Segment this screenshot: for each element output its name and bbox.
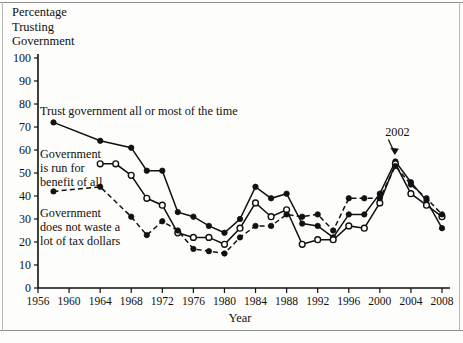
chart-figure: Percentage Trusting Government 010203040…	[0, 0, 463, 343]
data-point	[268, 223, 273, 228]
data-point	[51, 189, 56, 194]
x-tick-label-1972: 1972	[151, 295, 174, 307]
y-tick-label-50: 50	[19, 166, 31, 180]
data-point	[175, 228, 180, 233]
data-point	[159, 202, 165, 208]
data-point	[377, 196, 382, 201]
data-point	[424, 202, 430, 208]
data-point	[268, 196, 273, 201]
x-tick-label-1992: 1992	[306, 295, 329, 307]
data-point	[346, 223, 352, 229]
x-tick-label-1996: 1996	[337, 295, 360, 307]
y-tick-label-10: 10	[19, 258, 31, 272]
data-point	[330, 237, 336, 243]
series-label-waste-2: does not waste a	[40, 220, 121, 234]
data-point	[439, 226, 444, 231]
data-point	[237, 216, 242, 221]
x-tick-label-1960: 1960	[58, 295, 81, 307]
data-point	[253, 200, 259, 206]
x-tick-label-2008: 2008	[431, 295, 454, 307]
data-point	[268, 214, 274, 220]
data-point	[206, 223, 211, 228]
data-point	[424, 196, 429, 201]
data-point	[253, 184, 258, 189]
series-label-benefit-3: benefit of all	[40, 175, 103, 189]
data-point	[253, 223, 258, 228]
y-tick-label-0: 0	[25, 281, 31, 295]
data-point	[222, 230, 227, 235]
data-point	[315, 212, 320, 217]
data-point	[222, 241, 228, 247]
x-tick-label-2004: 2004	[399, 295, 422, 307]
series-label-benefit-2: is run for	[40, 161, 85, 175]
data-point	[361, 225, 367, 231]
data-point	[315, 237, 321, 243]
data-point	[160, 219, 165, 224]
data-point	[408, 191, 414, 197]
x-tick-label-1956: 1956	[27, 295, 50, 307]
y-tick-label-100: 100	[13, 51, 31, 65]
data-point	[299, 241, 305, 247]
series-label-waste-1: Government	[40, 206, 102, 220]
data-point	[97, 161, 103, 167]
annotation-label-2002: 2002	[385, 125, 409, 139]
data-point	[300, 214, 305, 219]
data-point	[206, 249, 211, 254]
data-point	[393, 163, 398, 168]
x-tick-label-1988: 1988	[275, 295, 298, 307]
axis-spines	[38, 54, 450, 288]
data-point	[362, 212, 367, 217]
data-point	[300, 221, 305, 226]
data-point	[362, 196, 367, 201]
series-label-waste-3: lot of tax dollars	[40, 234, 120, 248]
chart-plot-area: 0102030405060708090100195619601964196819…	[0, 0, 463, 343]
x-tick-label-1976: 1976	[182, 295, 205, 307]
x-axis-title: Year	[228, 311, 252, 325]
data-point	[144, 232, 149, 237]
data-point	[331, 228, 336, 233]
data-point	[284, 212, 289, 217]
data-point	[284, 191, 289, 196]
data-point	[222, 251, 227, 256]
series-label-benefit-1: Government	[40, 147, 102, 161]
x-tick-label-1968: 1968	[120, 295, 143, 307]
data-point	[144, 168, 149, 173]
data-point	[128, 172, 134, 178]
data-point	[206, 235, 212, 241]
data-point	[160, 168, 165, 173]
data-point	[408, 182, 413, 187]
y-tick-label-90: 90	[19, 74, 31, 88]
x-tick-label-1964: 1964	[89, 295, 112, 307]
y-tick-label-70: 70	[19, 120, 31, 134]
data-point	[191, 214, 196, 219]
data-point	[237, 225, 243, 231]
y-tick-label-80: 80	[19, 97, 31, 111]
data-point	[51, 120, 56, 125]
y-tick-label-30: 30	[19, 212, 31, 226]
y-tick-label-60: 60	[19, 143, 31, 157]
data-point	[144, 195, 150, 201]
x-tick-label-2000: 2000	[368, 295, 391, 307]
series-label-trust: Trust government all or most of the time	[40, 104, 238, 118]
annotation-arrow-head	[391, 148, 399, 155]
data-point	[191, 246, 196, 251]
data-point	[346, 212, 351, 217]
x-tick-label-1984: 1984	[244, 295, 267, 307]
data-point	[439, 212, 444, 217]
y-tick-label-40: 40	[19, 189, 31, 203]
data-point	[346, 196, 351, 201]
data-point	[191, 235, 197, 241]
data-point	[129, 145, 134, 150]
y-tick-label-20: 20	[19, 235, 31, 249]
data-point	[98, 138, 103, 143]
data-point	[237, 235, 242, 240]
data-point	[175, 209, 180, 214]
data-point	[113, 161, 119, 167]
x-tick-label-1980: 1980	[213, 295, 236, 307]
data-point	[129, 214, 134, 219]
data-point	[315, 223, 320, 228]
